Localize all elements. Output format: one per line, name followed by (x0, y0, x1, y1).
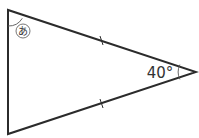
unknown-angle-label: あ (18, 26, 28, 37)
angle-40-label: 40° (147, 64, 174, 82)
triangle-diagram: あ 40° (0, 0, 199, 138)
